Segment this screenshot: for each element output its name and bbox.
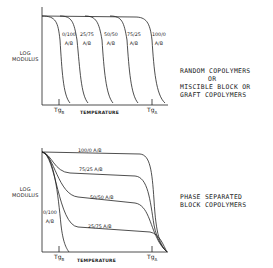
- tg-sub: A: [154, 110, 157, 115]
- top-curve-label: 50/50A/B: [104, 30, 118, 48]
- caption-line: PHASE SEPARATED: [180, 193, 246, 201]
- top-curve-label: 0/100A/B: [62, 30, 76, 48]
- unit: A/B: [152, 39, 166, 48]
- caption-line: MISCIBLE BLOCK OR: [180, 83, 251, 91]
- bottom-xlabel: TEMPERATURE: [77, 258, 116, 263]
- top-xlabel: TEMPERATURE: [80, 110, 119, 115]
- tg-sub: A: [154, 257, 157, 262]
- caption-line: RANDOM COPOLYMERS: [180, 67, 251, 75]
- bottom-caption: PHASE SEPARATEDBLOCK COPOLYMERS: [180, 193, 246, 209]
- bottom-curve-label: 100/0 A/B: [78, 146, 102, 155]
- bottom-curve-label: 0/100A/B: [43, 208, 57, 226]
- ratio: 0/100: [62, 30, 76, 39]
- tg-sub: B: [61, 257, 64, 262]
- top-curve-label: 75/25A/B: [127, 30, 141, 48]
- bottom-ylabel: LOG MODULUS: [12, 186, 39, 198]
- bottom-tg-a: TgA: [147, 253, 157, 262]
- ratio: 75/25: [127, 30, 141, 39]
- top-curve-label: 100/0A/B: [152, 30, 166, 48]
- top-tg-b: TgB: [54, 106, 64, 115]
- ratio: 100/0: [152, 30, 166, 39]
- unit: A/B: [62, 39, 76, 48]
- tg-sub: B: [61, 110, 64, 115]
- caption-line: OR: [180, 75, 251, 83]
- unit: A/B: [104, 39, 118, 48]
- top-curve-label: 25/75A/B: [80, 30, 94, 48]
- ratio: 0/100: [43, 208, 57, 217]
- unit: A/B: [80, 39, 94, 48]
- caption-line: BLOCK COPOLYMERS: [180, 201, 246, 209]
- top-ylabel: LOG MODULUS: [12, 50, 39, 62]
- ratio: 50/50: [104, 30, 118, 39]
- bottom-curve-label: 75/25 A/B: [79, 165, 103, 174]
- unit: A/B: [43, 217, 57, 226]
- unit: A/B: [127, 39, 141, 48]
- ratio: 25/75: [80, 30, 94, 39]
- bottom-curve-label: 25/75 A/B: [88, 222, 112, 231]
- caption-line: GRAFT COPOLYMERS: [180, 91, 251, 99]
- top-tg-a: TgA: [147, 106, 157, 115]
- ylabel-line: MODULUS: [12, 192, 39, 198]
- bottom-curve-label: 50/50 A/B: [90, 193, 114, 202]
- bottom-tg-b: TgB: [54, 253, 64, 262]
- top-caption: RANDOM COPOLYMERSORMISCIBLE BLOCK ORGRAF…: [180, 67, 251, 99]
- ylabel-line: MODULUS: [12, 56, 39, 62]
